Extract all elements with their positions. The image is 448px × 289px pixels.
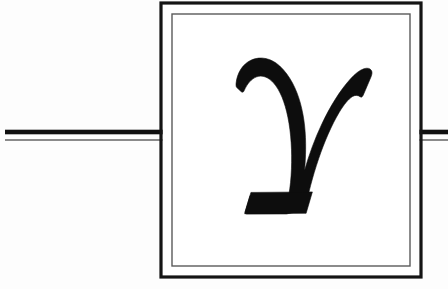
gamma-foot-slab — [245, 192, 313, 214]
diagram-svg: γ — [0, 0, 448, 289]
left-lead-thick-line — [5, 130, 164, 135]
diagram-canvas: γ — [0, 0, 448, 289]
left-lead-thin-line — [5, 139, 164, 140]
